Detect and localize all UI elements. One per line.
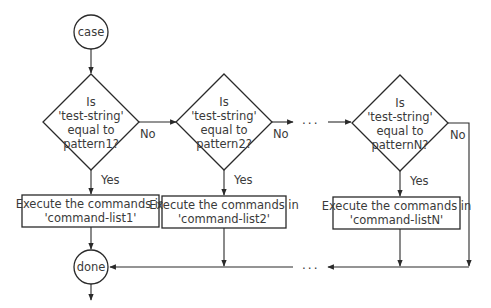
decision-2: Is 'test-string' equal to pattern2? xyxy=(176,74,272,170)
decision-n-line3: equal to xyxy=(376,124,423,138)
decision-2-line2: 'test-string' xyxy=(191,109,257,123)
decision-1-line4: pattern1? xyxy=(63,137,119,151)
case-flowchart: case Is 'test-string' equal to pattern1?… xyxy=(0,0,491,308)
start-label: case xyxy=(78,25,104,39)
decision-1-no-label: No xyxy=(140,127,156,141)
decision-1-yes-label: Yes xyxy=(100,173,120,187)
ellipsis-bottom: ... xyxy=(302,258,319,272)
end-label: done xyxy=(77,260,106,274)
decision-2-yes-label: Yes xyxy=(233,173,253,187)
decision-n-line1: Is xyxy=(395,96,404,110)
decision-2-line1: Is xyxy=(219,95,228,109)
arrow-decisionN-no xyxy=(448,123,469,266)
action-2-line2: 'command-list2' xyxy=(178,212,270,226)
ellipsis-top: ... xyxy=(302,113,319,127)
decision-2-no-label: No xyxy=(273,127,289,141)
start-node: case xyxy=(74,15,108,49)
action-n-line2: 'command-listN' xyxy=(350,213,443,227)
decision-1-line1: Is xyxy=(86,95,95,109)
decision-2-line4: pattern2? xyxy=(196,137,252,151)
action-1-line1: Execute the commands in xyxy=(16,197,166,211)
decision-2-line3: equal to xyxy=(200,123,247,137)
decision-1-line3: equal to xyxy=(67,123,114,137)
action-1-line2: 'command-list1' xyxy=(44,211,136,225)
decision-1-line2: 'test-string' xyxy=(58,109,124,123)
decision-n: Is 'test-string' equal to patternN? xyxy=(352,75,448,171)
action-1: Execute the commands in 'command-list1' xyxy=(16,195,166,227)
decision-n-yes-label: Yes xyxy=(409,174,429,188)
decision-1: Is 'test-string' equal to pattern1? xyxy=(43,74,139,170)
action-2-line1: Execute the commands in xyxy=(149,198,299,212)
decision-n-line4: patternN? xyxy=(372,138,429,152)
end-node: done xyxy=(74,250,108,284)
decision-n-no-label: No xyxy=(450,128,466,142)
action-2: Execute the commands in 'command-list2' xyxy=(149,196,299,228)
action-n: Execute the commands in 'command-listN' xyxy=(322,197,472,229)
decision-n-line2: 'test-string' xyxy=(367,110,433,124)
action-n-line1: Execute the commands in xyxy=(322,199,472,213)
